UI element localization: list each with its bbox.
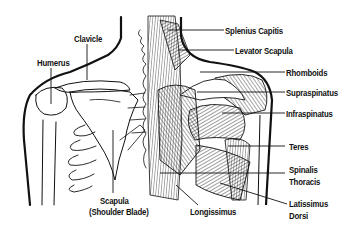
skeleton-side [24, 17, 146, 205]
label-supraspinatus: Supraspinatus [286, 87, 338, 98]
label-humerus: Humerus [37, 57, 70, 68]
label-infraspinatus: Infraspinatus [286, 108, 333, 119]
label-rhomboids: Rhomboids [286, 67, 327, 78]
label-teres: Teres [289, 141, 308, 152]
label-scapula-2: (Shoulder Blade) [89, 206, 149, 217]
label-spinalis-2: Thoracis [289, 176, 320, 187]
label-scapula-1: Scapula [100, 195, 129, 206]
label-latissimus-1: Latissimus [289, 198, 328, 209]
label-longissimus: Longissimus [190, 206, 236, 217]
label-levator-scapula: Levator Scapula [235, 45, 293, 56]
label-spinalis-1: Spinalis [289, 164, 318, 175]
label-latissimus-2: Dorsi [289, 210, 308, 221]
label-clavicle: Clavicle [74, 33, 102, 44]
label-splenius-capitis: Splenius Capitis [225, 25, 283, 36]
